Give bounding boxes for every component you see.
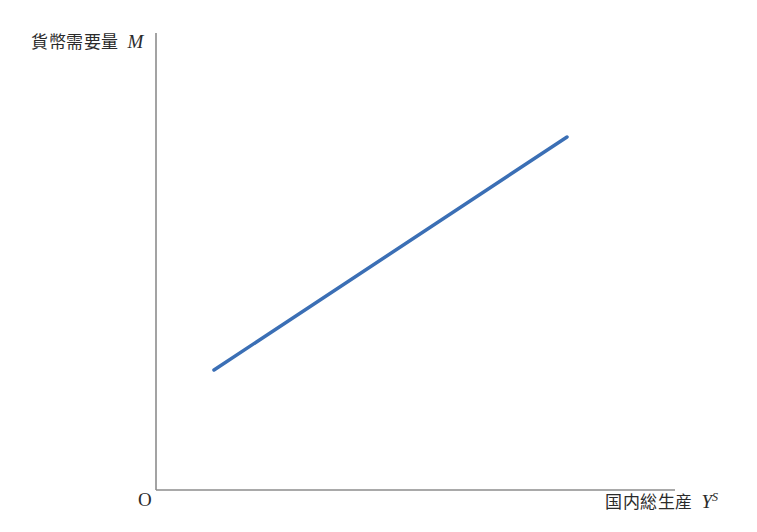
chart-figure: 貨幣需要量M 国内総生産YS O <box>0 0 757 532</box>
y-axis-label: 貨幣需要量M <box>31 32 143 51</box>
plot-area <box>0 0 757 532</box>
y-axis-label-symbol: M <box>128 31 144 52</box>
x-axis-label-superscript: S <box>712 490 718 504</box>
chart-background <box>0 0 757 532</box>
x-axis-label-text: 国内総生産 <box>605 493 693 512</box>
x-axis-label: 国内総生産YS <box>605 491 718 511</box>
origin-label: O <box>138 490 152 509</box>
x-axis-label-symbol: Y <box>702 491 713 512</box>
y-axis-label-text: 貨幣需要量 <box>31 33 119 52</box>
